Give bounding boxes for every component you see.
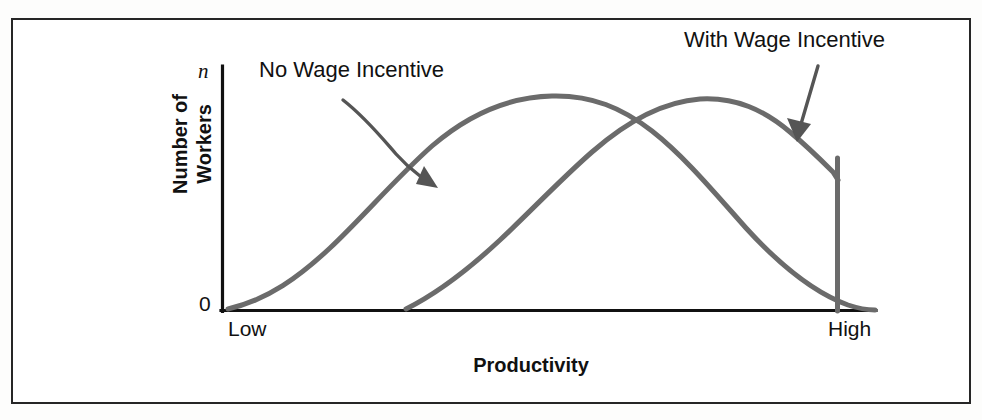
x-axis-title: Productivity (0, 355, 982, 377)
no-wage-annotation-arrowhead (416, 166, 438, 188)
y-axis-zero-label: 0 (199, 293, 211, 316)
with-wage-annotation-arrow (801, 66, 818, 124)
annotation-label-no-wage-incentive: No Wage Incentive (259, 58, 444, 82)
annotation-label-with-wage-incentive: With Wage Incentive (684, 28, 885, 52)
y-axis-title-line-2: Workers (193, 104, 215, 184)
curve-no-wage-incentive (228, 96, 875, 310)
y-axis-title-line-1: Number of (169, 94, 191, 194)
y-axis-title-text: Number of Workers (168, 44, 216, 244)
x-axis-tick-high: High (828, 318, 871, 341)
x-axis-tick-low: Low (228, 318, 267, 341)
figure-root: n 0 Number of Workers Low High Productiv… (0, 0, 982, 420)
no-wage-annotation-arrow (343, 100, 420, 176)
curve-with-wage-incentive (406, 99, 838, 309)
